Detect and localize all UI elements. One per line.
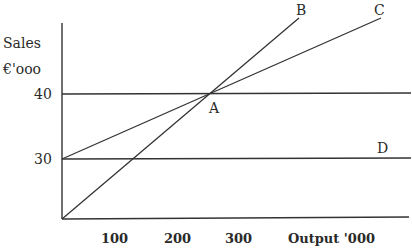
- x-axis: [62, 217, 409, 219]
- break-even-diagram: Sales €'ooo 40 30 100 200 300 Output '00…: [0, 0, 412, 251]
- line-B: [62, 18, 299, 219]
- x-axis-label: Output '000: [288, 231, 375, 246]
- x-tick-300: 300: [225, 231, 252, 246]
- line-40: [62, 93, 411, 94]
- y-label-sales: Sales: [3, 35, 41, 51]
- line-label-B: B: [296, 2, 306, 18]
- line-C: [62, 18, 381, 159]
- x-tick-200: 200: [164, 231, 191, 246]
- x-tick-100: 100: [101, 231, 128, 246]
- y-label-units: €'ooo: [2, 61, 41, 77]
- y-tick-40: 40: [34, 86, 52, 102]
- line-label-C: C: [374, 2, 385, 18]
- point-label-A: A: [208, 100, 220, 116]
- line-D: [62, 158, 411, 159]
- y-tick-30: 30: [34, 151, 52, 167]
- line-label-D: D: [377, 140, 388, 156]
